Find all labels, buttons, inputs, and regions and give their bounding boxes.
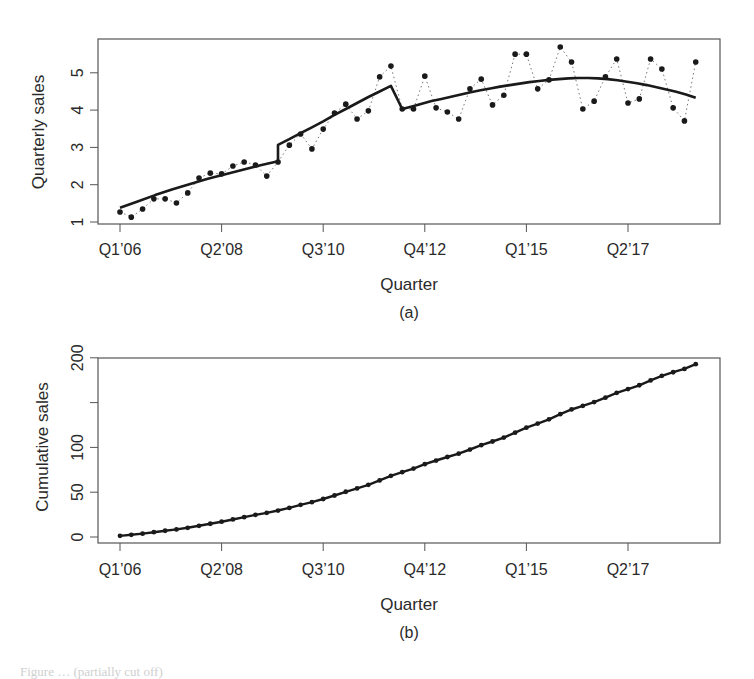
- data-point: [591, 98, 597, 104]
- data-point: [354, 116, 360, 122]
- x-tick-label: Q3’10: [302, 241, 345, 258]
- data-point: [625, 100, 631, 106]
- data-point: [524, 51, 530, 57]
- chart-canvas: 12345 Q1’06Q2’08Q3’10Q4’12Q1’15Q2’17 Qua…: [0, 0, 754, 679]
- observed-dotted-path: [120, 47, 696, 217]
- data-point: [321, 497, 326, 502]
- x-tick-label: Q1’15: [505, 241, 548, 258]
- data-point: [648, 56, 654, 62]
- x-tick-label: Q2’08: [200, 241, 243, 258]
- panel-b-y-axis: 050100200: [69, 344, 98, 541]
- data-point: [659, 373, 664, 378]
- data-point: [140, 206, 146, 212]
- data-point: [479, 443, 484, 448]
- x-tick-label: Q4’12: [403, 241, 446, 258]
- x-tick-label: Q2’08: [200, 561, 243, 578]
- data-point: [445, 455, 450, 460]
- data-point: [163, 528, 168, 533]
- data-point: [490, 439, 495, 444]
- figure-caption-cut-off: Figure … (partially cut off): [20, 664, 740, 679]
- panel-b-cumulative-points: [118, 362, 699, 538]
- data-point: [434, 458, 439, 463]
- fitted-trend-path: [120, 78, 696, 208]
- data-point: [603, 395, 608, 400]
- panel-a-plot-frame: [98, 39, 720, 224]
- data-point: [422, 462, 427, 467]
- data-point: [185, 525, 190, 530]
- data-point: [636, 96, 642, 102]
- data-point: [580, 106, 586, 112]
- data-point: [377, 74, 383, 80]
- x-tick-label: Q2’17: [607, 241, 650, 258]
- panel-a-x-axis: Q1’06Q2’08Q3’10Q4’12Q1’15Q2’17: [99, 224, 650, 258]
- data-point: [129, 532, 134, 537]
- data-point: [614, 390, 619, 395]
- data-point: [456, 116, 462, 122]
- x-tick-label: Q1’15: [505, 561, 548, 578]
- data-point: [287, 142, 293, 148]
- y-tick-label: 5: [69, 68, 86, 77]
- data-point: [241, 159, 247, 165]
- panel-a-sublabel: (a): [399, 304, 419, 321]
- data-point: [320, 126, 326, 132]
- data-point: [422, 73, 428, 79]
- data-point: [535, 86, 541, 92]
- data-point: [332, 493, 337, 498]
- data-point: [693, 362, 698, 367]
- data-point: [343, 489, 348, 494]
- data-point: [592, 400, 597, 405]
- data-point: [433, 105, 439, 111]
- data-point: [670, 105, 676, 111]
- x-tick-label: Q1’06: [99, 241, 142, 258]
- data-point: [626, 387, 631, 392]
- panel-b-plot-frame: [98, 358, 720, 543]
- panel-a-y-label: Quarterly sales: [29, 75, 48, 189]
- data-point: [445, 109, 451, 115]
- data-point: [513, 430, 518, 435]
- cumulative-path: [120, 364, 696, 536]
- y-tick-label: 4: [69, 106, 86, 115]
- data-point: [377, 478, 382, 483]
- data-point: [467, 86, 473, 92]
- data-point: [174, 200, 180, 206]
- data-point: [637, 383, 642, 388]
- data-point: [411, 106, 417, 112]
- data-point: [151, 196, 157, 202]
- data-point: [208, 521, 213, 526]
- data-point: [343, 101, 349, 107]
- data-point: [366, 108, 372, 114]
- data-point: [468, 447, 473, 452]
- data-point: [569, 59, 575, 65]
- x-tick-label: Q4’12: [403, 561, 446, 578]
- data-point: [242, 515, 247, 520]
- panel-b-x-axis: Q1’06Q2’08Q3’10Q4’12Q1’15Q2’17: [99, 543, 650, 578]
- data-point: [185, 190, 191, 196]
- data-point: [253, 512, 258, 517]
- y-tick-label: 1: [69, 217, 86, 226]
- panel-a-observed-points: [117, 44, 698, 220]
- data-point: [219, 171, 225, 177]
- data-point: [140, 531, 145, 536]
- panel-a-fitted-trend-line: [120, 78, 696, 208]
- data-point: [411, 466, 416, 471]
- panel-a-x-label: Quarter: [380, 275, 438, 294]
- data-point: [671, 370, 676, 375]
- data-point: [264, 173, 270, 179]
- data-point: [128, 214, 134, 220]
- panel-a-quarterly-sales: 12345 Q1’06Q2’08Q3’10Q4’12Q1’15Q2’17 Qua…: [29, 39, 720, 321]
- data-point: [174, 527, 179, 532]
- data-point: [490, 102, 496, 108]
- panel-a-observed-dotted-line: [120, 47, 696, 217]
- data-point: [275, 159, 281, 165]
- data-point: [230, 163, 236, 169]
- data-point: [208, 170, 214, 176]
- data-point: [456, 451, 461, 456]
- panel-b-sublabel: (b): [399, 624, 419, 641]
- data-point: [558, 412, 563, 417]
- data-point: [693, 59, 699, 65]
- data-point: [196, 175, 202, 181]
- panel-b-cumulative-line: [120, 364, 696, 536]
- data-point: [298, 502, 303, 507]
- data-point: [355, 486, 360, 491]
- data-point: [614, 56, 620, 62]
